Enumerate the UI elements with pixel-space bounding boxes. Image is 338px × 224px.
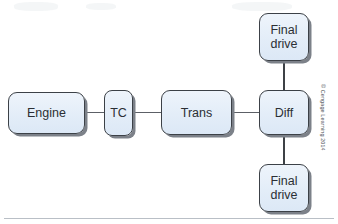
node-transmission[interactable]: Trans — [161, 90, 232, 135]
node-transmission-label: Trans — [181, 106, 213, 120]
connector-diff-final-drive-top — [283, 60, 285, 91]
page-divider-rule — [4, 218, 334, 219]
scan-artifact — [14, 2, 58, 11]
scan-artifact — [232, 2, 292, 11]
connector-tc-trans — [133, 112, 161, 113]
connector-engine-tc — [85, 112, 104, 113]
node-final-drive-bottom-label: Final drive — [270, 174, 297, 202]
node-torque-converter-label: TC — [110, 106, 127, 120]
node-final-drive-top-label: Final drive — [270, 23, 297, 51]
node-differential[interactable]: Diff — [259, 90, 309, 135]
diagram-canvas: Final drive Engine TC Trans Diff Final d… — [0, 0, 338, 224]
node-engine-label: Engine — [27, 106, 66, 120]
node-torque-converter[interactable]: TC — [104, 90, 133, 136]
copyright-notice: © Cengage Learning 2014 — [320, 84, 326, 158]
connector-diff-final-drive-bottom — [283, 134, 285, 165]
node-engine[interactable]: Engine — [8, 92, 85, 134]
node-final-drive-top[interactable]: Final drive — [259, 13, 309, 61]
scan-artifact — [86, 3, 116, 10]
node-differential-label: Diff — [275, 106, 294, 120]
connector-trans-diff — [232, 112, 259, 113]
node-final-drive-bottom[interactable]: Final drive — [259, 164, 309, 212]
